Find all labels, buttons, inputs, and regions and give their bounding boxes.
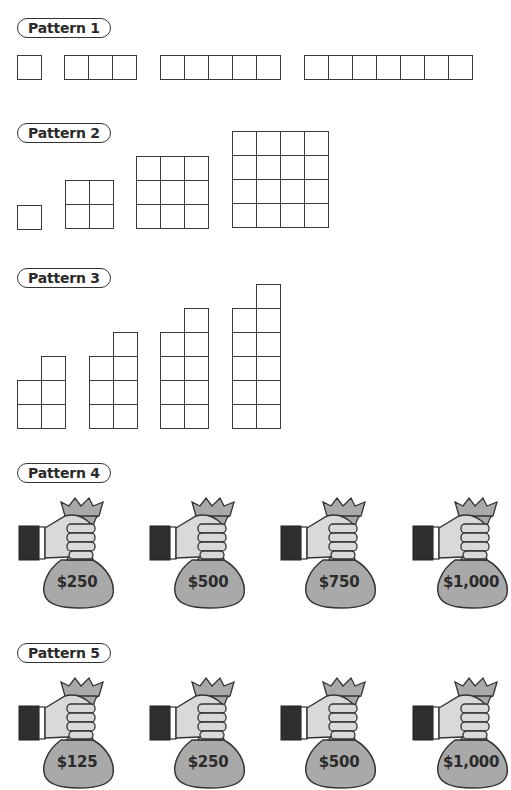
pattern-5-label: Pattern 5 xyxy=(17,643,111,663)
money-bag-icon: $1,000 xyxy=(411,494,507,606)
bag-amount: $1,000 xyxy=(433,753,509,771)
money-bag-icon: $250 xyxy=(17,494,113,606)
bag-amount: $750 xyxy=(301,573,377,591)
bag-amount: $250 xyxy=(170,753,246,771)
pattern-1-term-4 xyxy=(304,55,473,80)
pattern-4-label: Pattern 4 xyxy=(17,463,111,483)
bag-amount: $500 xyxy=(301,753,377,771)
pattern-3-term-4 xyxy=(232,0,282,429)
bag-amount: $250 xyxy=(39,573,115,591)
pattern-3-term-1 xyxy=(17,0,67,429)
bag-amount: $500 xyxy=(170,573,246,591)
bag-amount: $125 xyxy=(39,753,115,771)
pattern-3-term-2 xyxy=(89,0,139,429)
money-bag-icon: $250 xyxy=(148,674,244,786)
money-bag-icon: $1,000 xyxy=(411,674,507,786)
money-bag-icon: $125 xyxy=(17,674,113,786)
bag-amount: $1,000 xyxy=(433,573,509,591)
money-bag-icon: $750 xyxy=(279,494,375,606)
pattern-3-term-3 xyxy=(160,0,210,429)
money-bag-icon: $500 xyxy=(279,674,375,786)
money-bag-icon: $500 xyxy=(148,494,244,606)
